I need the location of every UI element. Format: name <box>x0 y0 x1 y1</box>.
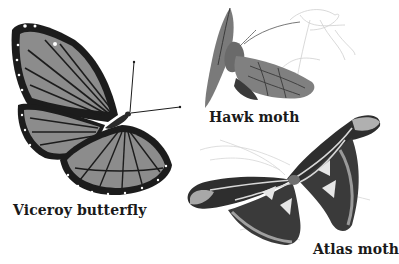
hawk-moth-label: Hawk moth <box>209 109 300 125</box>
atlas-moth <box>188 115 381 245</box>
illustration-canvas <box>0 0 399 264</box>
hawk-moth <box>205 8 314 108</box>
viceroy-butterfly-label: Viceroy butterfly <box>13 202 146 218</box>
atlas-moth-label: Atlas moth <box>313 241 399 257</box>
insect-figure: Viceroy butterfly Hawk moth Atlas moth <box>0 0 399 264</box>
viceroy-butterfly <box>12 23 182 195</box>
